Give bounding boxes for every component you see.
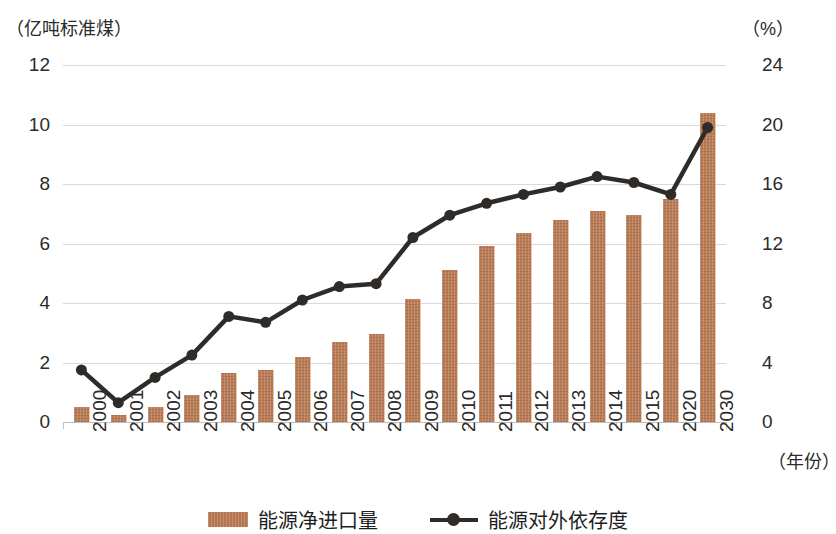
x-axis-label-2005: 2005	[275, 390, 294, 432]
line-series	[63, 65, 726, 422]
right-axis-unit-label: （%）	[742, 14, 794, 40]
x-axis-label-2002: 2002	[164, 390, 183, 432]
line-marker-2007	[334, 281, 345, 292]
legend-item-line: 能源对外依存度	[430, 505, 628, 534]
chart-container: （亿吨标准煤） （%） （年份） 121086420 24201612840 2…	[0, 0, 836, 534]
left-axis-tick-6: 6	[8, 234, 50, 253]
chart-legend: 能源净进口量 能源对外依存度	[0, 505, 836, 534]
line-marker-2004	[223, 311, 234, 322]
line-marker-2014	[592, 171, 603, 182]
line-marker-2001	[113, 397, 124, 408]
left-axis-tick-10: 10	[8, 115, 50, 134]
line-marker-2008	[371, 278, 382, 289]
x-axis-label-2000: 2000	[90, 390, 109, 432]
left-axis-tick-12: 12	[8, 55, 50, 74]
left-axis-tick-2: 2	[8, 353, 50, 372]
x-axis-label-2003: 2003	[201, 390, 220, 432]
x-axis-label-2020: 2020	[680, 390, 699, 432]
x-axis-label-2013: 2013	[569, 390, 588, 432]
x-axis-label-2001: 2001	[127, 390, 146, 432]
right-axis-tick-0: 0	[762, 412, 808, 431]
line-marker-2010	[444, 210, 455, 221]
left-axis-tick-0: 0	[8, 412, 50, 431]
left-axis-tick-8: 8	[8, 174, 50, 193]
x-axis-label-2015: 2015	[643, 390, 662, 432]
x-axis-label-2012: 2012	[532, 390, 551, 432]
right-axis-tick-12: 12	[762, 234, 808, 253]
x-axis-label-2007: 2007	[348, 390, 367, 432]
legend-label-line: 能源对外依存度	[488, 505, 628, 534]
line-swatch-icon	[430, 512, 478, 527]
right-axis-tick-20: 20	[762, 115, 808, 134]
line-marker-2030	[702, 122, 713, 133]
x-axis-label-2009: 2009	[422, 390, 441, 432]
line-marker-2020	[665, 189, 676, 200]
line-marker-2005	[260, 317, 271, 328]
left-axis-unit-label: （亿吨标准煤）	[6, 14, 132, 40]
x-axis-label-2006: 2006	[311, 390, 330, 432]
line-swatch-marker	[447, 513, 460, 526]
x-axis-label-2011: 2011	[496, 391, 515, 432]
line-marker-2011	[481, 198, 492, 209]
bar-swatch-icon	[208, 512, 248, 527]
plot-area	[63, 65, 726, 422]
right-axis-tick-8: 8	[762, 293, 808, 312]
x-tick	[63, 422, 64, 429]
legend-label-bar: 能源净进口量	[258, 505, 378, 534]
x-axis-label-2010: 2010	[459, 390, 478, 432]
right-axis-tick-24: 24	[762, 55, 808, 74]
line-marker-2000	[76, 364, 87, 375]
line-marker-2015	[628, 177, 639, 188]
left-axis-tick-4: 4	[8, 293, 50, 312]
line-marker-2006	[297, 295, 308, 306]
right-axis-tick-16: 16	[762, 174, 808, 193]
line-marker-2009	[407, 232, 418, 243]
line-marker-2013	[555, 182, 566, 193]
legend-item-bar: 能源净进口量	[208, 505, 378, 534]
x-axis-label-2004: 2004	[238, 390, 257, 432]
right-axis-tick-4: 4	[762, 353, 808, 372]
line-marker-2012	[518, 189, 529, 200]
line-marker-2003	[186, 350, 197, 361]
x-axis-unit-label: （年份）	[768, 447, 836, 473]
x-axis-label-2008: 2008	[385, 390, 404, 432]
line-marker-2002	[150, 372, 161, 383]
x-axis-label-2030: 2030	[717, 390, 736, 432]
x-axis-label-2014: 2014	[606, 390, 625, 432]
